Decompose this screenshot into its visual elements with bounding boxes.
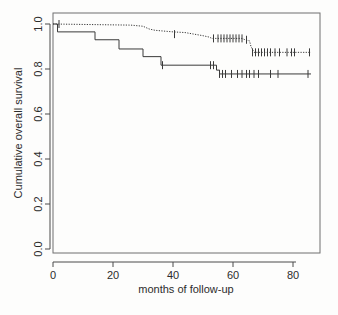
- series-solid-curve: [53, 24, 311, 78]
- survival-curve-solid: [53, 24, 311, 74]
- x-tick-label: 0: [50, 269, 56, 281]
- x-axis-ticks: 020406080: [50, 262, 299, 281]
- x-axis-title: months of follow-up: [138, 283, 233, 295]
- y-tick-label: 0.4: [32, 151, 44, 166]
- survival-chart-figure: 0.00.20.40.60.81.0 020406080 months of f…: [0, 0, 338, 315]
- series-dotted-curve: [53, 20, 311, 56]
- x-tick-label: 60: [227, 269, 239, 281]
- y-tick-label: 0.2: [32, 196, 44, 211]
- y-tick-label: 1.0: [32, 16, 44, 31]
- series-layer: [53, 20, 311, 78]
- y-axis-ticks: 0.00.20.40.60.81.0: [32, 16, 50, 256]
- y-tick-label: 0.0: [32, 241, 44, 256]
- x-tick-label: 20: [107, 269, 119, 281]
- plot-canvas: 0.00.20.40.60.81.0 020406080 months of f…: [0, 0, 338, 315]
- y-tick-label: 0.8: [32, 61, 44, 76]
- y-axis-title: Cumulative overall survival: [12, 68, 24, 199]
- survival-curve-dotted: [53, 24, 311, 52]
- x-tick-label: 80: [287, 269, 299, 281]
- y-tick-label: 0.6: [32, 106, 44, 121]
- x-tick-label: 40: [167, 269, 179, 281]
